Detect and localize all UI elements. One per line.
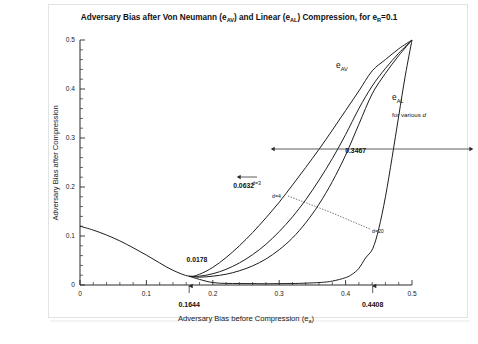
d4-curve-label: d=4: [272, 193, 281, 199]
x-marker-right: 0.4408: [362, 301, 384, 308]
y-tick-label: 0.2: [66, 183, 75, 190]
eav-curve-label: eAV: [336, 60, 348, 72]
d4-leader-line: [288, 196, 370, 229]
y-axis-ticks: [80, 40, 85, 285]
for-various-d-label: for various d: [392, 111, 427, 118]
x-axis-tick-labels: 00.10.20.30.40.5: [78, 290, 417, 297]
data-curves: [80, 40, 412, 284]
x-tick-label: 0.4: [341, 290, 350, 297]
x-axis-ticks: [80, 280, 412, 285]
x-marker-left: 0.1644: [178, 301, 200, 308]
curve-eav: [80, 40, 412, 276]
d20-curve-label: d=20: [372, 228, 384, 234]
y-tick-label: 0.3: [66, 134, 75, 141]
y-axis-title: Adversary Bias after Compression: [51, 105, 60, 220]
chart-title: Adversary Bias after Von Neumann (eAV) a…: [81, 13, 398, 23]
x-tick-label: 0.2: [208, 290, 217, 297]
x-tick-label: 0.1: [142, 290, 151, 297]
y-axis-tick-labels: 00.10.20.30.40.5: [66, 36, 76, 288]
x-tick-label: 0.5: [407, 290, 416, 297]
curve-eal-d-3: [189, 40, 412, 276]
y-tick-label: 0.5: [66, 36, 75, 43]
crossing-value-0178: 0.0178: [187, 256, 208, 263]
chart-canvas: Adversary Bias after Von Neumann (eAV) a…: [0, 0, 478, 344]
figure-root: Adversary Bias after Von Neumann (eAV) a…: [0, 0, 478, 344]
gap-value-0632: 0.0632: [233, 182, 254, 189]
x-tick-label: 0: [78, 290, 82, 297]
x-axis-title: Adversary Bias before Compression (ea): [178, 314, 314, 324]
gap-value-3467: 0.3467: [345, 147, 366, 154]
curve-eal-d-4: [189, 40, 412, 277]
y-tick-label: 0: [71, 281, 75, 288]
y-tick-label: 0.1: [66, 232, 75, 239]
y-tick-label: 0.4: [66, 85, 75, 92]
x-tick-label: 0.3: [275, 290, 284, 297]
